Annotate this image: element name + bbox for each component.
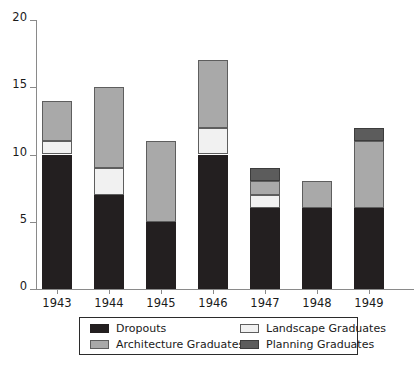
bar-segment-landscape <box>42 141 72 154</box>
bar-segment-architecture <box>94 87 124 168</box>
x-axis-tick-label: 1947 <box>239 298 291 310</box>
legend-label: Architecture Graduates <box>116 339 244 350</box>
bar-segment-dropouts <box>302 208 332 289</box>
x-axis-tick-label: 1949 <box>343 298 395 310</box>
legend-swatch-architecture <box>90 340 109 349</box>
bar-segment-planning <box>250 168 280 181</box>
y-axis-tick-mark <box>30 155 36 156</box>
bar-segment-landscape <box>198 128 228 155</box>
bar-segment-planning <box>354 128 384 141</box>
legend-item-dropouts: Dropouts <box>90 323 240 334</box>
legend-item-planning: Planning Graduates <box>240 339 386 350</box>
bar-1945 <box>146 20 176 289</box>
x-axis-tick-mark <box>213 289 214 294</box>
x-axis-tick-label: 1944 <box>83 298 135 310</box>
bar-1943 <box>42 20 72 289</box>
x-axis-tick-label: 1943 <box>31 298 83 310</box>
bar-segment-architecture <box>302 181 332 208</box>
legend-swatch-dropouts <box>90 324 109 333</box>
x-axis-tick-mark <box>57 289 58 294</box>
bar-1948 <box>302 20 332 289</box>
bar-1947 <box>250 20 280 289</box>
legend-label: Landscape Graduates <box>266 323 386 334</box>
bar-1946 <box>198 20 228 289</box>
bar-segment-dropouts <box>354 208 384 289</box>
bar-segment-landscape <box>250 195 280 208</box>
bar-segment-dropouts <box>42 155 72 290</box>
x-axis-tick-label: 1948 <box>291 298 343 310</box>
bar-segment-architecture <box>198 60 228 127</box>
x-axis-tick-mark <box>317 289 318 294</box>
x-axis-tick-mark <box>161 289 162 294</box>
bar-segment-dropouts <box>198 155 228 290</box>
y-axis-tick-label: 20 <box>12 12 27 24</box>
bar-segment-architecture <box>354 141 384 208</box>
y-axis-line <box>36 20 37 290</box>
legend-swatch-planning <box>240 340 259 349</box>
legend-label: Dropouts <box>116 323 166 334</box>
x-axis-tick-label: 1945 <box>135 298 187 310</box>
x-axis-tick-mark <box>109 289 110 294</box>
bar-segment-architecture <box>146 141 176 222</box>
bar-segment-landscape <box>94 168 124 195</box>
legend-label: Planning Graduates <box>266 339 374 350</box>
bar-segment-dropouts <box>94 195 124 289</box>
x-axis-tick-label: 1946 <box>187 298 239 310</box>
bar-segment-dropouts <box>250 208 280 289</box>
y-axis-tick-label: 0 <box>20 281 27 293</box>
legend-item-landscape: Landscape Graduates <box>240 323 386 334</box>
y-axis-tick-label: 10 <box>12 147 27 159</box>
bar-1944 <box>94 20 124 289</box>
y-axis-tick-mark <box>30 20 36 21</box>
y-axis-tick-mark <box>30 222 36 223</box>
stacked-bar-chart: 05101520 1943194419451946194719481949 Dr… <box>0 0 420 371</box>
bar-segment-architecture <box>250 181 280 194</box>
bar-segment-dropouts <box>146 222 176 289</box>
bar-segment-architecture <box>42 101 72 141</box>
y-axis-tick-label: 15 <box>12 79 27 91</box>
legend-item-architecture: Architecture Graduates <box>90 339 240 350</box>
x-axis-tick-mark <box>265 289 266 294</box>
x-axis-line <box>36 289 414 290</box>
x-axis-tick-mark <box>369 289 370 294</box>
y-axis-tick-mark <box>30 87 36 88</box>
chart-legend: DropoutsLandscape GraduatesArchitecture … <box>79 317 358 355</box>
bar-1949 <box>354 20 384 289</box>
y-axis-tick-label: 5 <box>20 214 27 226</box>
legend-swatch-landscape <box>240 324 259 333</box>
y-axis-tick-mark <box>30 289 36 290</box>
